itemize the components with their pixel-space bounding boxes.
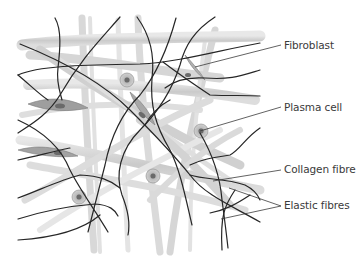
label-fibroblast: Fibroblast [284, 39, 334, 51]
label-plasma-cell: Plasma cell [284, 101, 342, 113]
label-elastic-fibres: Elastic fibres [284, 199, 350, 211]
label-collagen-fibre: Collagen fibre [284, 163, 356, 175]
